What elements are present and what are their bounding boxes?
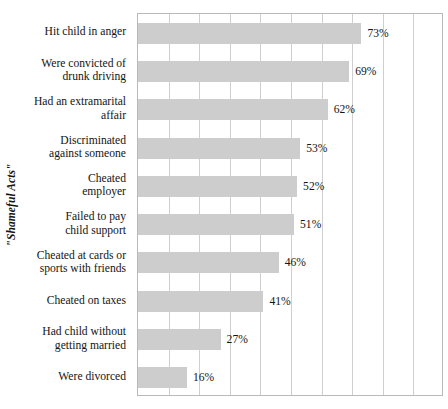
category-label: Cheated on taxes bbox=[18, 294, 126, 307]
bar-value-label: 52% bbox=[303, 176, 324, 197]
bar-value-label: 53% bbox=[306, 138, 327, 159]
bar bbox=[138, 23, 361, 44]
category-label-line: Had child without bbox=[18, 325, 126, 338]
plot-area: 73%69%62%53%52%51%46%41%27%16% bbox=[137, 13, 443, 396]
bar-value-label: 41% bbox=[269, 291, 290, 312]
bar-value-label: 62% bbox=[334, 99, 355, 120]
bar bbox=[138, 61, 349, 82]
category-label: Hit child in anger bbox=[18, 25, 126, 38]
bar bbox=[138, 214, 294, 235]
gridline bbox=[413, 14, 414, 395]
bar-value-label: 73% bbox=[367, 23, 388, 44]
category-label: Had child withoutgetting married bbox=[18, 325, 126, 352]
y-axis-title-label: "Shameful Acts" bbox=[5, 163, 17, 246]
category-label-line: sports with friends bbox=[18, 262, 126, 275]
category-label-line: against someone bbox=[18, 147, 126, 160]
category-label-line: drunk driving bbox=[18, 70, 126, 83]
bar bbox=[138, 138, 300, 159]
category-label: Cheatedemployer bbox=[18, 172, 126, 199]
bar-chart: "Shameful Acts" Hit child in angerWere c… bbox=[0, 0, 448, 409]
bar bbox=[138, 252, 279, 273]
category-label: Discriminatedagainst someone bbox=[18, 134, 126, 161]
bar bbox=[138, 367, 187, 388]
bar-value-label: 46% bbox=[285, 252, 306, 273]
bar bbox=[138, 176, 297, 197]
bar bbox=[138, 291, 263, 312]
category-label: Failed to paychild support bbox=[18, 210, 126, 237]
category-label-line: Failed to pay bbox=[18, 210, 126, 223]
bar bbox=[138, 329, 221, 350]
bar-value-label: 27% bbox=[227, 329, 248, 350]
category-label-line: Were convicted of bbox=[18, 57, 126, 70]
category-label-line: child support bbox=[18, 224, 126, 237]
category-label-column: Hit child in angerWere convicted ofdrunk… bbox=[22, 13, 132, 396]
category-label: Cheated at cards orsports with friends bbox=[18, 249, 126, 276]
category-label: Were convicted ofdrunk driving bbox=[18, 57, 126, 84]
category-label-line: Discriminated bbox=[18, 134, 126, 147]
category-label-line: getting married bbox=[18, 339, 126, 352]
category-label-line: Hit child in anger bbox=[18, 25, 126, 38]
category-label-line: affair bbox=[18, 109, 126, 122]
bar-value-label: 69% bbox=[355, 61, 376, 82]
category-label-line: Cheated bbox=[18, 172, 126, 185]
bar-value-label: 16% bbox=[193, 367, 214, 388]
gridline bbox=[352, 14, 353, 395]
category-label-line: Were divorced bbox=[18, 370, 126, 383]
category-label: Were divorced bbox=[18, 370, 126, 383]
category-label-line: Cheated on taxes bbox=[18, 294, 126, 307]
gridline bbox=[383, 14, 384, 395]
bar bbox=[138, 99, 328, 120]
category-label-line: Cheated at cards or bbox=[18, 249, 126, 262]
bar-value-label: 51% bbox=[300, 214, 321, 235]
category-label: Had an extramaritalaffair bbox=[18, 95, 126, 122]
category-label-line: employer bbox=[18, 185, 126, 198]
category-label-line: Had an extramarital bbox=[18, 95, 126, 108]
